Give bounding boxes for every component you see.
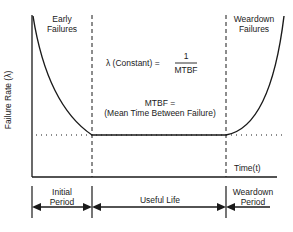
period-weardown-line1: Weardown	[230, 187, 276, 197]
mtbf-line2: (Mean Time Between Failure)	[100, 108, 220, 118]
period-useful-line1: Useful Life	[120, 195, 200, 205]
early-failures-line2: Failures	[42, 24, 82, 34]
mtbf-definition: MTBF = (Mean Time Between Failure)	[100, 98, 220, 118]
mtbf-line1: MTBF =	[100, 98, 220, 108]
weardown-failures-label: Weardown Failures	[230, 14, 278, 34]
period-initial-label: Initial Period	[38, 187, 86, 207]
arrowhead-right-icon	[217, 203, 226, 211]
formula-denominator: MTBF	[172, 65, 200, 75]
x-axis-label: Time(t)	[234, 163, 261, 173]
formula-numerator: 1	[175, 51, 197, 61]
early-failures-label: Early Failures	[42, 14, 82, 34]
period-weardown-label: Weardown Period	[230, 187, 276, 207]
formula-lhs: λ (Constant) =	[106, 58, 160, 68]
period-useful-label: Useful Life	[120, 195, 200, 205]
period-initial-line2: Period	[38, 197, 86, 207]
weardown-failures-line1: Weardown	[230, 14, 278, 24]
arrowhead-left-icon	[92, 203, 101, 211]
period-weardown-line2: Period	[230, 197, 276, 207]
period-initial-line1: Initial	[38, 187, 86, 197]
y-axis-label: Failure Rate (λ)	[3, 70, 13, 130]
early-failures-line1: Early	[42, 14, 82, 24]
weardown-failures-line2: Failures	[230, 24, 278, 34]
